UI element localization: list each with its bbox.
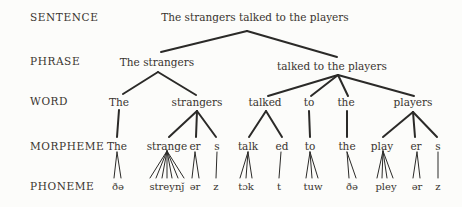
node-morpheme-talk: talk [238, 140, 258, 152]
row-label-phoneme: PHONEME [30, 180, 94, 192]
tree-edge [247, 31, 337, 57]
tree-edge [383, 112, 413, 137]
tree-edge [413, 152, 417, 178]
node-phoneme-dhe-2: ðə [346, 181, 358, 192]
node-phoneme-dhe-1: ðə [112, 181, 124, 192]
node-morpheme-to: to [305, 140, 316, 152]
row-label-word: WORD [30, 95, 68, 107]
row-label-morpheme: MORPHEME [30, 140, 104, 152]
tree-edge [161, 31, 247, 52]
tree-edge [123, 72, 158, 94]
node-morpheme-er-1: er [189, 140, 200, 152]
node-morpheme-play: play [371, 140, 393, 152]
node-phoneme-z-1: z [213, 181, 218, 192]
node-phrase-talked-to-the-players: talked to the players [277, 60, 387, 72]
node-phoneme-t: t [277, 181, 281, 192]
node-morpheme-ed: ed [276, 140, 289, 152]
tree-edge [114, 152, 117, 178]
tree-edge [413, 112, 415, 137]
node-word-strangers: strangers [172, 96, 223, 108]
tree-edge [117, 110, 119, 137]
tree-edge [158, 72, 196, 95]
tree-edge [195, 152, 199, 178]
node-phoneme-z-2: z [435, 181, 440, 192]
tree-edge [216, 152, 217, 178]
node-word-talked: talked [248, 96, 281, 108]
tree-edge [309, 111, 310, 137]
tree-diagram: SENTENCEPHRASEWORDMORPHEMEPHONEMEThe str… [0, 0, 462, 207]
tree-edge [197, 111, 216, 137]
node-phoneme-er-2: ər [412, 181, 423, 192]
tree-edge [417, 152, 420, 178]
tree-edge [196, 111, 197, 137]
node-phoneme-tuw: tuw [303, 181, 322, 192]
node-phrase-the-strangers: The strangers [120, 56, 194, 68]
node-morpheme-strange: strange [147, 140, 188, 152]
node-phoneme-pley: pley [375, 181, 396, 192]
tree-edge [413, 112, 437, 137]
tree-edge [338, 75, 414, 96]
tree-edge [156, 151, 167, 178]
node-morpheme-s-1: s [214, 140, 219, 152]
tree-edge [167, 151, 178, 178]
node-word-to: to [304, 96, 315, 108]
tree-edge [266, 111, 282, 137]
node-word-the-1: The [109, 96, 129, 108]
row-label-phrase: PHRASE [30, 55, 80, 67]
tree-edge [169, 111, 197, 137]
node-sentence: The strangers talked to the players [161, 11, 348, 23]
node-morpheme-s-2: s [435, 140, 440, 152]
tree-edge [117, 152, 121, 178]
row-label-sentence: SENTENCE [30, 11, 98, 23]
node-phoneme-tok: tɔk [238, 181, 254, 192]
node-word-players: players [394, 96, 433, 108]
node-morpheme-er-2: er [410, 140, 421, 152]
tree-edge [279, 152, 281, 178]
node-phoneme-er-1: ər [190, 181, 201, 192]
node-phoneme-streynj: streynǰ [149, 181, 184, 192]
node-word-the-2: the [337, 96, 354, 108]
tree-edge [268, 75, 338, 96]
node-morpheme-the-1: The [107, 140, 127, 152]
tree-edge [249, 111, 266, 137]
tree-edge [192, 152, 195, 178]
node-morpheme-the-2: the [338, 140, 355, 152]
tree-edge [248, 152, 252, 178]
tree-edge [306, 152, 310, 178]
